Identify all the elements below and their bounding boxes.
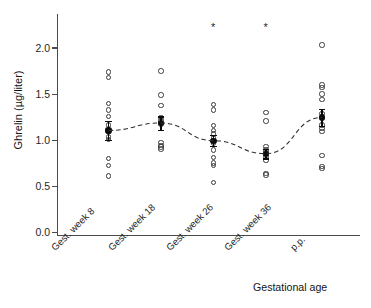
data-point-open-circle	[211, 102, 216, 107]
y-tick-label: 1.5	[2, 89, 50, 99]
y-axis-tick-label-group: 2.0 1.5 1.0 0.5 0.0	[0, 0, 50, 308]
data-point-open-circle	[319, 85, 324, 90]
data-point-open-circle	[106, 107, 111, 112]
data-point-open-circle	[263, 118, 268, 123]
data-point-open-circle	[319, 166, 324, 171]
data-point-open-circle	[211, 107, 216, 112]
data-point-open-circle	[106, 114, 111, 119]
data-point-open-circle	[106, 101, 111, 106]
error-bar-cap	[105, 121, 112, 122]
y-tick-label: 0.5	[2, 181, 50, 191]
data-point-open-circle	[106, 173, 111, 178]
data-point-open-circle	[158, 103, 163, 108]
data-point-open-circle	[106, 69, 111, 74]
y-axis-title: Ghrelin (µg/liter)	[12, 30, 24, 190]
data-point-open-circle	[158, 146, 163, 151]
error-bar-cap	[210, 135, 217, 136]
mean-marker	[319, 114, 325, 120]
error-bar-cap	[210, 146, 217, 147]
mean-marker	[105, 127, 111, 133]
error-bar-cap	[158, 116, 165, 117]
data-point-open-circle	[319, 153, 324, 158]
data-point-open-circle	[263, 172, 268, 177]
significance-asterisk: *	[264, 23, 268, 31]
y-tick-label: 2.0	[2, 43, 50, 53]
data-point-open-circle	[319, 129, 324, 134]
data-point-open-circle	[319, 42, 324, 47]
error-bar-cap	[319, 109, 326, 110]
x-tick-label-pp: p.p.	[288, 234, 307, 253]
mean-marker	[263, 151, 269, 157]
data-point-open-circle	[319, 91, 324, 96]
y-tick-label: 0.0	[2, 227, 50, 237]
error-bar-cap	[263, 158, 270, 159]
ghrelin-gestational-age-figure: 2.0 1.5 1.0 0.5 0.0 Ghrelin (µg/liter) *…	[0, 0, 371, 308]
data-point-open-circle	[263, 110, 268, 115]
data-point-open-circle	[106, 75, 111, 80]
error-bar-cap	[319, 126, 326, 127]
mean-marker	[210, 138, 216, 144]
error-bar-cap	[105, 140, 112, 141]
data-point-open-circle	[106, 163, 111, 168]
data-point-open-circle	[319, 97, 324, 102]
data-point-open-circle	[211, 180, 216, 185]
data-point-open-circle	[211, 155, 216, 160]
y-tick-label: 1.0	[2, 135, 50, 145]
significance-asterisk: *	[211, 23, 215, 31]
error-bar-cap	[158, 130, 165, 131]
data-point-open-circle	[211, 147, 216, 152]
x-axis-title: Gestational age	[253, 281, 327, 293]
data-point-open-circle	[106, 156, 111, 161]
data-point-open-circle	[158, 92, 163, 97]
data-point-open-circle	[211, 163, 216, 168]
data-point-open-circle	[158, 68, 163, 73]
